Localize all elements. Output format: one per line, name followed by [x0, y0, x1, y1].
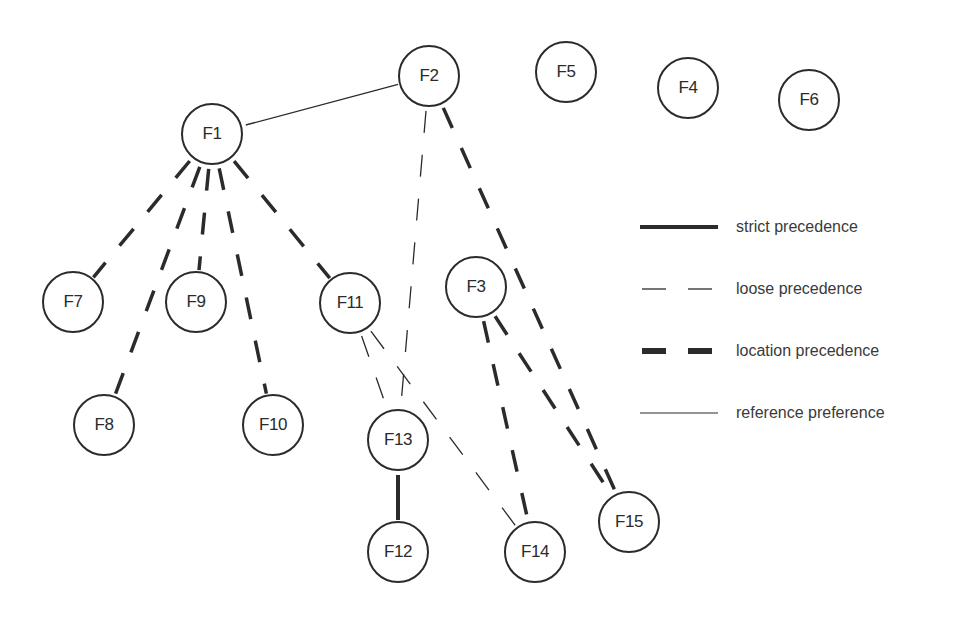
node-f7: F7: [42, 271, 104, 333]
node-f10: F10: [242, 394, 304, 456]
node-f15: F15: [598, 491, 660, 553]
edge-location-f1-f10: [219, 168, 266, 393]
node-label: F5: [557, 62, 576, 82]
node-f12: F12: [367, 521, 429, 583]
legend-label: loose precedence: [736, 279, 862, 299]
node-f2: F2: [398, 45, 460, 107]
node-label: F12: [384, 542, 412, 562]
node-label: F1: [203, 124, 222, 144]
node-label: F3: [467, 277, 486, 297]
legend-label: reference preference: [736, 403, 885, 423]
node-f9: F9: [165, 271, 227, 333]
legend-item-strict: strict precedence: [640, 217, 960, 237]
node-label: F9: [187, 292, 206, 312]
legend-label: strict precedence: [736, 217, 858, 237]
edge-loose-f2-f13: [401, 111, 426, 408]
node-label: F6: [800, 90, 819, 110]
loose-dashed-line-icon: [640, 279, 720, 299]
node-f3: F3: [445, 256, 507, 318]
node-label: F13: [384, 430, 412, 450]
node-f14: F14: [504, 521, 566, 583]
edge-location-f3-f15: [495, 316, 611, 495]
edge-location-f1-f11: [234, 161, 330, 278]
edge-location-f1-f7: [93, 161, 189, 277]
legend-label: location precedence: [736, 341, 879, 361]
legend-item-loose: loose precedence: [640, 279, 960, 299]
node-f8: F8: [73, 394, 135, 456]
node-label: F2: [420, 66, 439, 86]
node-label: F4: [679, 78, 698, 98]
node-label: F7: [64, 292, 83, 312]
edge-location-f3-f14: [484, 321, 528, 521]
edge-reference-f1-f2: [246, 84, 398, 125]
node-label: F10: [259, 415, 287, 435]
node-label: F8: [95, 415, 114, 435]
node-f11: F11: [319, 272, 381, 334]
node-label: F15: [615, 512, 643, 532]
node-f13: F13: [367, 409, 429, 471]
node-f4: F4: [657, 57, 719, 119]
node-f5: F5: [535, 41, 597, 103]
node-f1: F1: [181, 103, 243, 165]
node-f6: F6: [778, 69, 840, 131]
legend-item-reference: reference preference: [640, 403, 960, 423]
legend-item-location: location precedence: [640, 341, 960, 361]
node-label: F14: [521, 542, 549, 562]
strict-line-icon: [640, 217, 720, 237]
edge-location-f1-f9: [199, 169, 209, 270]
reference-thin-line-icon: [640, 403, 720, 423]
node-label: F11: [337, 293, 364, 313]
location-thick-dashed-line-icon: [640, 341, 720, 361]
